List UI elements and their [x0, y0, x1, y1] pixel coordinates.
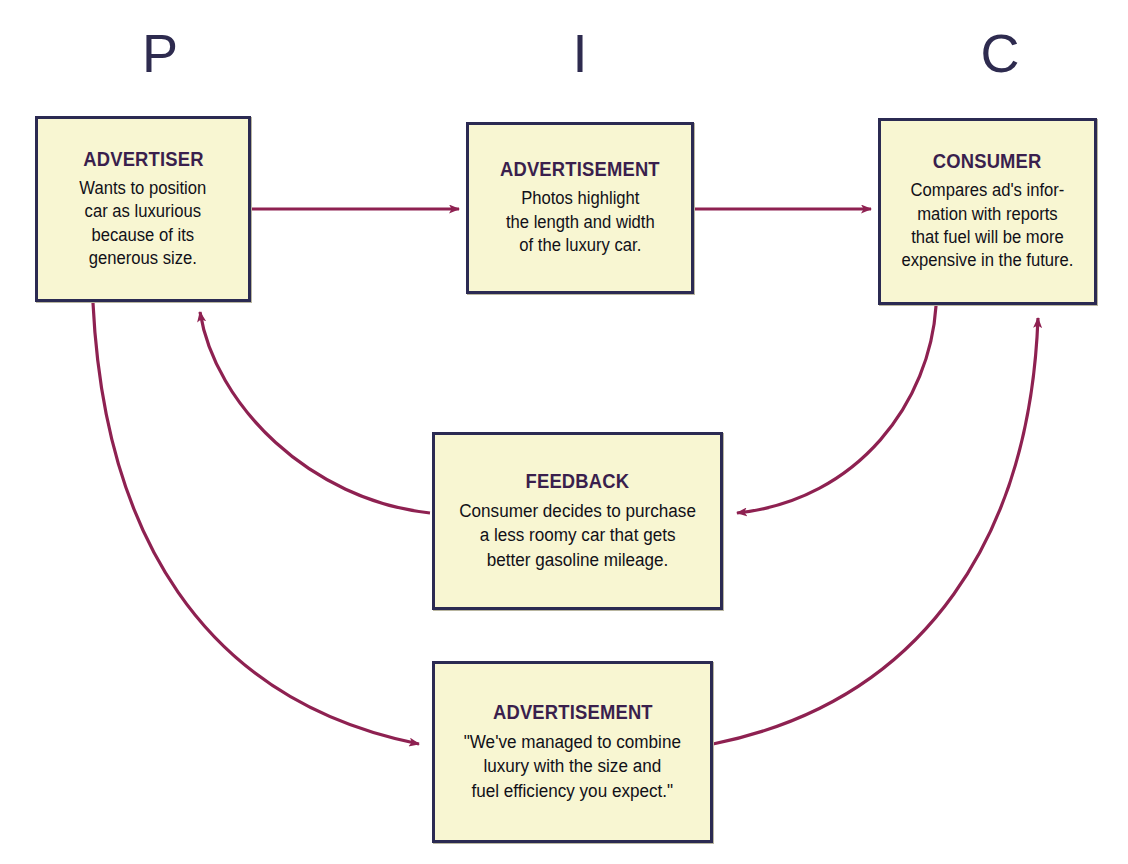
node-advertiser-title: ADVERTISER — [83, 148, 203, 170]
node-consumer-body: Compares ad's infor- mation with reports… — [902, 179, 1074, 273]
node-feedback-title: FEEDBACK — [526, 470, 630, 492]
connector-feedback-to-advertiser — [200, 312, 430, 513]
node-advertisement-bottom-title: ADVERTISEMENT — [493, 701, 653, 723]
marker-letter-p: P — [130, 26, 190, 80]
node-advertisement-top[interactable]: ADVERTISEMENT Photos highlight the lengt… — [466, 122, 694, 294]
node-consumer-title: CONSUMER — [933, 150, 1042, 172]
node-advertisement-bottom[interactable]: ADVERTISEMENT "We've managed to combine … — [432, 661, 713, 843]
node-advertisement-top-body: Photos highlight the length and width of… — [506, 187, 655, 257]
node-feedback-body: Consumer decides to purchase a less room… — [459, 499, 696, 571]
marker-letter-c: C — [970, 26, 1030, 80]
node-advertisement-top-title: ADVERTISEMENT — [500, 158, 660, 180]
connector-consumer-to-feedback — [737, 306, 936, 513]
node-advertiser-body: Wants to position car as luxurious becau… — [80, 177, 207, 271]
marker-letter-i: I — [550, 26, 610, 80]
node-consumer[interactable]: CONSUMER Compares ad's infor- mation wit… — [878, 118, 1097, 305]
node-advertisement-bottom-body: "We've managed to combine luxury with th… — [464, 730, 681, 802]
diagram-canvas: P I C ADVERTISER Wants to position car a… — [0, 0, 1128, 864]
connector-advertisement-bottom-to-consumer — [713, 318, 1038, 744]
node-feedback[interactable]: FEEDBACK Consumer decides to purchase a … — [432, 432, 723, 610]
connector-advertiser-to-advertisement-bottom — [93, 303, 419, 744]
node-advertiser[interactable]: ADVERTISER Wants to position car as luxu… — [35, 116, 251, 302]
